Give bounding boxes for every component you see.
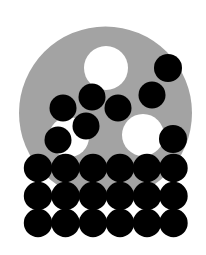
grid-dot — [51, 209, 79, 237]
grid-dot — [24, 182, 52, 210]
circle-diagram — [0, 0, 206, 255]
grid-dot — [24, 209, 52, 237]
white-hole — [122, 114, 164, 156]
black-dot — [139, 82, 166, 109]
black-dot — [79, 84, 106, 111]
grid-dot — [159, 209, 187, 237]
grid-dot — [133, 154, 161, 182]
grid-dot — [106, 154, 134, 182]
black-dot — [154, 54, 182, 82]
grid-dot — [24, 154, 52, 182]
grid-dot — [133, 209, 161, 237]
white-hole — [84, 46, 128, 90]
grid-dot — [106, 209, 134, 237]
grid-dot — [133, 182, 161, 210]
grid-dot — [159, 154, 187, 182]
grid-dot — [79, 209, 107, 237]
black-dot — [73, 113, 100, 140]
black-dot — [50, 95, 77, 122]
grid-dot — [106, 182, 134, 210]
grid-dot — [51, 154, 79, 182]
grid-dot — [51, 182, 79, 210]
grid-dot — [79, 154, 107, 182]
black-dot — [159, 125, 187, 153]
black-dot — [105, 95, 132, 122]
grid-dot — [159, 182, 187, 210]
black-dot — [45, 127, 72, 154]
black-dot-grid — [24, 154, 188, 237]
grid-dot — [79, 182, 107, 210]
